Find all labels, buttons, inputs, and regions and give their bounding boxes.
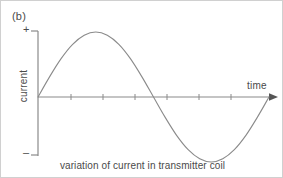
y-axis-negative-label: – <box>23 147 29 158</box>
y-axis-title: current <box>19 56 29 116</box>
plot-canvas <box>1 1 283 178</box>
y-axis-positive-label: + <box>23 24 29 35</box>
panel-label: (b) <box>12 11 26 22</box>
x-axis-arrowhead <box>269 93 278 101</box>
figure-container: (b) + – current time variation of curren… <box>0 0 283 178</box>
figure-caption: variation of current in transmitter coil <box>1 161 283 171</box>
x-axis-title: time <box>247 81 267 91</box>
